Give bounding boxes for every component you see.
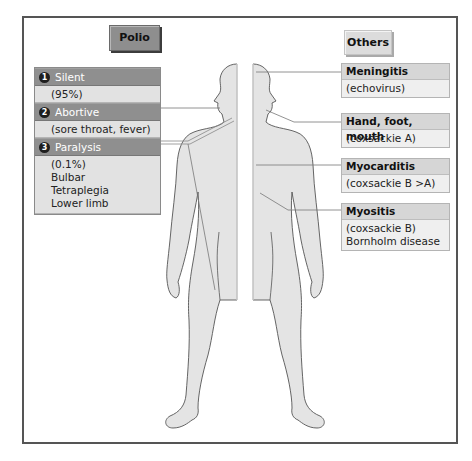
detail-line: (0.1%) bbox=[51, 158, 160, 171]
box-detail: (coxsackie A) bbox=[342, 130, 449, 147]
section-title: Abortive bbox=[55, 104, 99, 120]
left-half-body bbox=[166, 64, 237, 428]
box-detail: (coxsackie B >A) bbox=[342, 175, 449, 192]
polio-tag: Polio bbox=[109, 25, 160, 51]
section-title: Silent bbox=[55, 69, 85, 85]
section-title: Paralysis bbox=[55, 139, 101, 155]
number-1-icon: 1 bbox=[39, 72, 50, 83]
right-half-body bbox=[253, 64, 324, 428]
detail-line: (coxsackie B) bbox=[346, 222, 449, 235]
box-title: Meningitis bbox=[342, 64, 449, 80]
section-abortive-detail: (sore throat, fever) bbox=[35, 121, 160, 138]
myocarditis-box: Myocarditis (coxsackie B >A) bbox=[341, 158, 450, 193]
detail-line: Bornholm disease bbox=[346, 235, 449, 248]
box-title: Myositis bbox=[342, 204, 449, 220]
box-title: Hand, foot, mouth bbox=[342, 114, 449, 130]
meningitis-box: Meningitis (echovirus) bbox=[341, 63, 450, 98]
hand-foot-mouth-box: Hand, foot, mouth (coxsackie A) bbox=[341, 113, 450, 148]
detail-line: Tetraplegia bbox=[51, 184, 160, 197]
section-paralysis-header: 3 Paralysis bbox=[35, 138, 160, 156]
section-silent-header: 1 Silent bbox=[35, 68, 160, 86]
section-silent-detail: (95%) bbox=[35, 86, 160, 103]
detail-line: Bulbar bbox=[51, 171, 160, 184]
myositis-box: Myositis (coxsackie B) Bornholm disease bbox=[341, 203, 450, 251]
section-abortive-header: 2 Abortive bbox=[35, 103, 160, 121]
detail-line: Lower limb bbox=[51, 197, 160, 210]
section-paralysis-details: (0.1%) Bulbar Tetraplegia Lower limb bbox=[35, 156, 160, 214]
box-details: (coxsackie B) Bornholm disease bbox=[342, 220, 449, 250]
box-detail: (echovirus) bbox=[342, 80, 449, 97]
polio-outcomes-box: 1 Silent (95%) 2 Abortive (sore throat, … bbox=[34, 67, 161, 215]
number-2-icon: 2 bbox=[39, 107, 50, 118]
number-3-icon: 3 bbox=[39, 142, 50, 153]
leader-hfm bbox=[266, 110, 341, 122]
box-title: Myocarditis bbox=[342, 159, 449, 175]
others-tag: Others bbox=[344, 30, 392, 55]
